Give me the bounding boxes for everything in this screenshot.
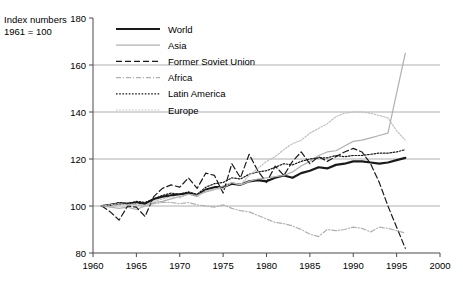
x-axis-tick-label: 1985 xyxy=(299,260,320,271)
series-line-world xyxy=(102,158,406,206)
series-line-latin_america xyxy=(102,150,406,206)
y-axis-tick-label: 100 xyxy=(70,201,86,212)
x-axis-tick-label: 1975 xyxy=(213,260,234,271)
x-axis-tick-label: 1995 xyxy=(386,260,407,271)
y-axis-tick-label: 120 xyxy=(70,154,86,165)
x-axis-tick-label: 1980 xyxy=(256,260,277,271)
legend-label-africa: Africa xyxy=(168,72,193,83)
series-line-asia xyxy=(102,53,406,209)
x-axis-tick-label: 1965 xyxy=(126,260,147,271)
legend-label-europe: Europe xyxy=(168,105,199,116)
x-axis-tick-label: 1960 xyxy=(82,260,103,271)
legend-label-fsu: Former Soviet Union xyxy=(168,56,255,67)
x-axis-tick-label: 2000 xyxy=(429,260,450,271)
series-line-fsu xyxy=(102,148,406,248)
chart-container: Index numbers 1961 = 100 801001201401601… xyxy=(0,0,463,292)
y-axis-tick-label: 160 xyxy=(70,60,86,71)
legend-label-latin_america: Latin America xyxy=(168,88,226,99)
y-axis-tick-label: 140 xyxy=(70,107,86,118)
legend-label-asia: Asia xyxy=(168,40,187,51)
series-line-africa xyxy=(102,202,406,236)
line-chart-svg: 8010012014016018019601965197019751980198… xyxy=(0,0,463,292)
y-axis-tick-label: 180 xyxy=(70,13,86,24)
x-axis-tick-label: 1990 xyxy=(343,260,364,271)
x-axis-tick-label: 1970 xyxy=(169,260,190,271)
y-axis-tick-label: 80 xyxy=(75,248,86,259)
legend-label-world: World xyxy=(168,24,193,35)
